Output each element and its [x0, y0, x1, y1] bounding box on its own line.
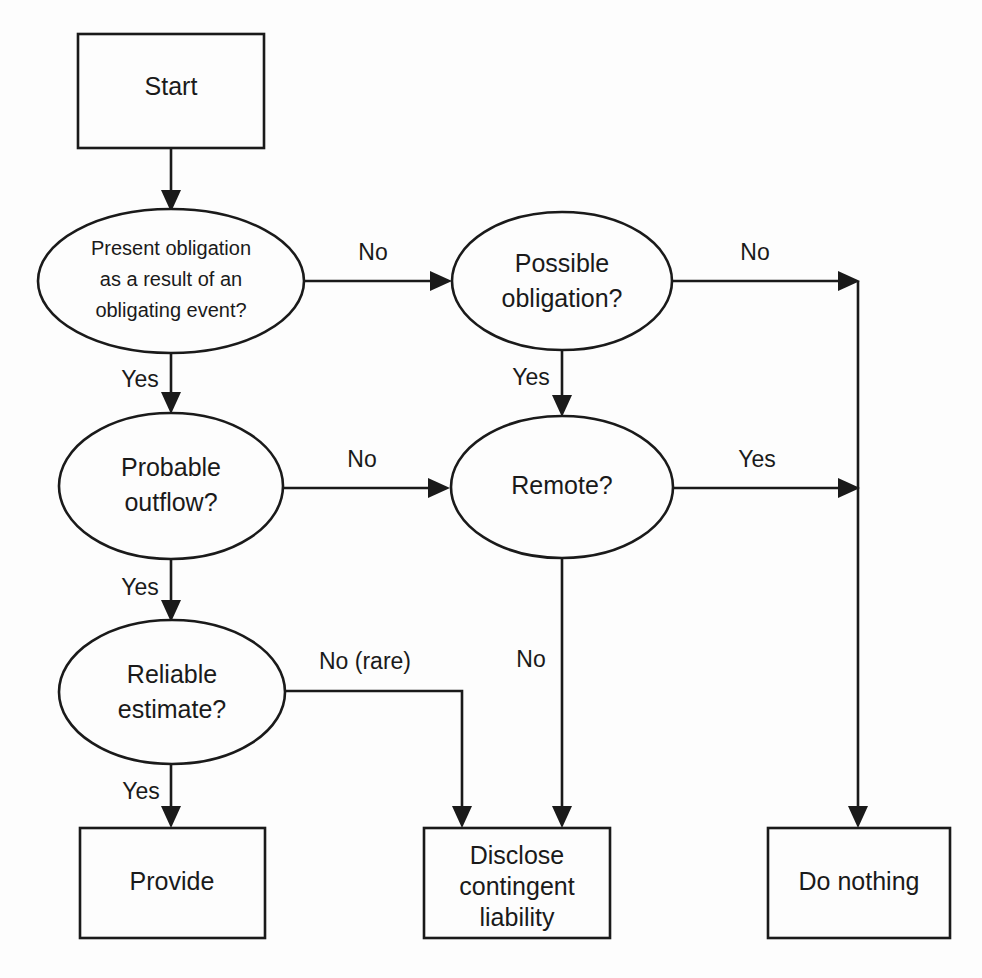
- node-provide-label: Provide: [130, 867, 215, 895]
- node-probable-outflow-line2: outflow?: [124, 488, 217, 516]
- edge-remote-to-donothing: [673, 478, 860, 498]
- node-start-label: Start: [145, 72, 198, 100]
- node-disclose-line2: contingent: [459, 872, 574, 900]
- edge-label-remote-to-disclose: No: [516, 646, 545, 672]
- node-disclose-line1: Disclose: [470, 841, 564, 869]
- edge-reliable-to-disclose: [285, 691, 472, 828]
- edge-possible-to-remote: [552, 350, 572, 417]
- edge-label-present-to-probable: Yes: [121, 366, 159, 392]
- edge-label-probable-to-reliable: Yes: [121, 574, 159, 600]
- node-remote-label: Remote?: [511, 471, 612, 499]
- edge-label-reliable-to-disclose: No (rare): [319, 648, 411, 674]
- arrowhead-icon: [428, 478, 450, 498]
- edge-label-present-to-possible: No: [358, 239, 387, 265]
- arrowhead-icon: [552, 806, 572, 828]
- flowchart-canvas: Start Present obligation as a result of …: [0, 0, 982, 978]
- edge-label-remote-to-donothing: Yes: [738, 446, 776, 472]
- arrowhead-icon: [161, 806, 181, 828]
- edge-reliable-to-provide: [161, 765, 181, 828]
- node-present-obligation-line2: as a result of an: [100, 268, 242, 290]
- arrowhead-icon: [161, 600, 181, 622]
- arrowhead-icon: [430, 271, 452, 291]
- node-present-obligation-line3: obligating event?: [95, 299, 246, 321]
- node-start[interactable]: Start: [78, 34, 264, 148]
- node-provide[interactable]: Provide: [80, 828, 265, 938]
- edge-start-to-present-obligation: [161, 148, 181, 212]
- edge-label-reliable-to-provide: Yes: [122, 778, 160, 804]
- edge-present-to-probable: [161, 352, 181, 414]
- node-probable-outflow-line1: Probable: [121, 453, 221, 481]
- node-possible-obligation-line1: Possible: [515, 249, 610, 277]
- edge-label-possible-to-donothing: No: [740, 239, 769, 265]
- node-disclose-line3: liability: [479, 903, 555, 931]
- node-do-nothing[interactable]: Do nothing: [768, 828, 950, 938]
- edge-label-probable-to-remote: No: [347, 446, 376, 472]
- node-possible-obligation-line2: obligation?: [502, 284, 623, 312]
- node-possible-obligation[interactable]: Possible obligation?: [452, 212, 672, 350]
- arrowhead-icon: [452, 806, 472, 828]
- node-reliable-estimate[interactable]: Reliable estimate?: [59, 620, 285, 764]
- node-present-obligation[interactable]: Present obligation as a result of an obl…: [38, 209, 304, 353]
- arrowhead-icon: [161, 392, 181, 414]
- edge-possible-to-donothing: [672, 271, 860, 291]
- edge-probable-to-remote: [283, 478, 450, 498]
- edge-label-possible-to-remote: Yes: [512, 364, 550, 390]
- node-probable-outflow[interactable]: Probable outflow?: [59, 413, 283, 559]
- node-reliable-estimate-line2: estimate?: [118, 695, 226, 723]
- edge-probable-to-reliable: [161, 558, 181, 622]
- node-reliable-estimate-line1: Reliable: [127, 660, 217, 688]
- node-disclose-contingent-liability[interactable]: Disclose contingent liability: [424, 828, 610, 938]
- arrowhead-icon: [552, 395, 572, 417]
- flowchart-diagram: Start Present obligation as a result of …: [0, 0, 982, 978]
- node-do-nothing-label: Do nothing: [799, 867, 920, 895]
- node-present-obligation-line1: Present obligation: [91, 237, 251, 259]
- edge-present-to-possible: [305, 271, 452, 291]
- edge-rail-to-donothing: [848, 281, 868, 828]
- edge-remote-to-disclose: [552, 557, 572, 828]
- node-remote[interactable]: Remote?: [451, 416, 673, 558]
- arrowhead-icon: [848, 806, 868, 828]
